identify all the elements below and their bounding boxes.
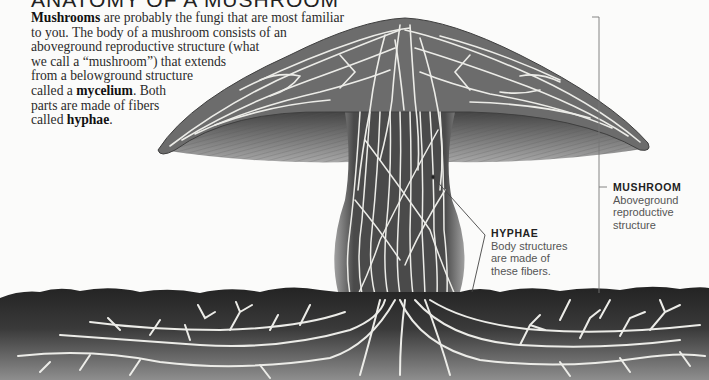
callout-hyphae: HYPHAE Body structures are made of these… — [491, 227, 581, 277]
callout-mushroom: MUSHROOM Aboveground reproductive struct… — [613, 181, 708, 231]
callout-mushroom-line: reproductive — [613, 206, 708, 219]
callout-hyphae-line: Body structures — [491, 240, 581, 253]
callout-mushroom-heading: MUSHROOM — [613, 181, 708, 194]
mushroom-illustration — [0, 0, 709, 380]
callout-mushroom-line: structure — [613, 219, 708, 232]
callout-hyphae-line: these fibers. — [491, 265, 581, 278]
callout-mushroom-line: Aboveground — [613, 194, 708, 207]
callout-hyphae-heading: HYPHAE — [491, 227, 581, 240]
soil-ground — [0, 287, 709, 380]
callout-hyphae-line: are made of — [491, 252, 581, 265]
